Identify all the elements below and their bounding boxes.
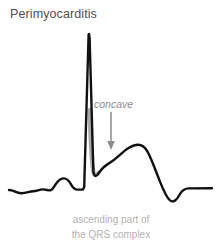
concave-annotation-label: concave <box>94 98 133 110</box>
figure-caption: ascending part of the QRS complex <box>0 212 222 242</box>
down-arrow-icon <box>107 112 115 150</box>
caption-line-2: the QRS complex <box>0 227 222 242</box>
ecg-figure: Perimyocarditis concave ascending part o… <box>0 0 222 250</box>
caption-line-1: ascending part of <box>0 212 222 227</box>
